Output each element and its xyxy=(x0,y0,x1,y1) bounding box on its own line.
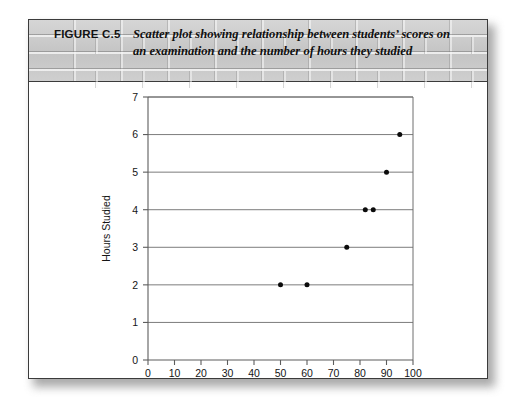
data-point xyxy=(371,207,376,212)
x-tick-label-0: 0 xyxy=(145,367,151,378)
plot-frame-group xyxy=(148,97,413,360)
figure-number-label: FIGURE C.5 xyxy=(54,28,121,40)
data-point xyxy=(363,207,368,212)
x-tick-label-20: 20 xyxy=(195,367,207,378)
y-tick-label-1: 1 xyxy=(132,316,138,328)
figure-header-band: FIGURE C.5 Scatter plot showing relation… xyxy=(29,20,487,82)
figure-root: FIGURE C.5 Scatter plot showing relation… xyxy=(0,0,521,416)
x-axis-group: 0102030405060708090100 xyxy=(145,360,422,378)
y-tick-label-0: 0 xyxy=(132,354,138,366)
x-tick-label-40: 40 xyxy=(248,367,260,378)
y-tick-label-3: 3 xyxy=(132,241,138,253)
data-point xyxy=(344,245,349,250)
data-point xyxy=(397,132,402,137)
x-tick-label-50: 50 xyxy=(275,367,287,378)
data-point xyxy=(384,170,389,175)
y-axis-title: Hours Studied xyxy=(100,195,112,262)
y-tick-label-5: 5 xyxy=(132,166,138,178)
figure-caption-text: Scatter plot showing relationship betwee… xyxy=(133,26,463,59)
y-tick-label-6: 6 xyxy=(132,128,138,140)
x-tick-label-80: 80 xyxy=(354,367,366,378)
x-tick-label-100: 100 xyxy=(404,367,422,378)
data-point xyxy=(278,282,283,287)
scatter-chart: 01234567 0102030405060708090100 Scores o… xyxy=(29,82,488,378)
x-tick-label-70: 70 xyxy=(328,367,340,378)
x-tick-label-30: 30 xyxy=(222,367,234,378)
scatter-plot-svg: 01234567 0102030405060708090100 Scores o… xyxy=(29,82,488,378)
data-point xyxy=(305,282,310,287)
x-tick-label-60: 60 xyxy=(301,367,313,378)
figure-box: FIGURE C.5 Scatter plot showing relation… xyxy=(28,19,488,379)
x-tick-label-90: 90 xyxy=(381,367,393,378)
y-axis-group: 01234567 xyxy=(132,91,148,366)
y-tick-label-4: 4 xyxy=(132,204,138,216)
x-tick-label-10: 10 xyxy=(169,367,181,378)
y-tick-label-2: 2 xyxy=(132,279,138,291)
y-tick-label-7: 7 xyxy=(132,91,138,103)
